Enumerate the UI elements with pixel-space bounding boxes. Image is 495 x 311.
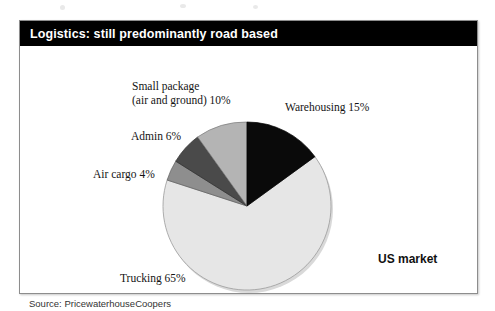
pie-label-admin: Admin 6% (131, 129, 181, 143)
pie-chart: Small package (air and ground) 10% Wareh… (20, 46, 477, 293)
pie-label-warehousing: Warehousing 15% (285, 100, 369, 114)
scan-speckle (180, 4, 186, 8)
market-annotation: US market (378, 252, 437, 267)
exhibit-title-bar: Logistics: still predominantly road base… (20, 21, 477, 46)
pie-label-trucking: Trucking 65% (120, 271, 186, 285)
pie-label-air-cargo: Air cargo 4% (93, 167, 155, 181)
scan-speckle (60, 5, 65, 10)
exhibit-title: Logistics: still predominantly road base… (20, 27, 278, 41)
pie-label-small-package: Small package (air and ground) 10% (132, 79, 231, 107)
pie-label-small-package-line1: Small package (132, 79, 231, 93)
scan-speckle (253, 5, 258, 9)
source-note: Source: PricewaterhouseCoopers (29, 298, 171, 309)
exhibit-frame: Logistics: still predominantly road base… (19, 20, 478, 294)
pie-label-small-package-line2: (air and ground) 10% (132, 93, 231, 107)
